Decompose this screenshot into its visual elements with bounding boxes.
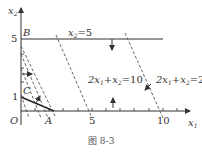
figure-caption: 图 8-3 <box>88 136 115 146</box>
point-C-label: C <box>23 85 31 96</box>
dashed-line-eq10 <box>56 35 92 118</box>
x-axis-label: x1 <box>188 117 197 129</box>
y-tick-1: 1 <box>12 91 18 102</box>
x-tick-10: 10 <box>157 115 170 126</box>
lp-diagram: x2 x1 O 5 1 5 10 B C A x2=5 2x1+x2=10 2x… <box>0 0 202 152</box>
point-B-label: B <box>22 27 30 38</box>
line-CA <box>21 97 54 111</box>
label-eq20: 2x1+x2=20 <box>155 74 202 86</box>
origin-label: O <box>10 115 18 126</box>
label-x2-eq-5: x2=5 <box>68 27 92 39</box>
y-axis-label: x2 <box>8 5 18 17</box>
dashed-line-4 <box>21 46 56 118</box>
label-eq10: 2x1+x2=10 <box>87 74 143 86</box>
x-tick-5: 5 <box>89 115 95 126</box>
y-tick-5: 5 <box>11 33 17 44</box>
point-A-label: A <box>44 115 52 126</box>
y-axis <box>21 8 24 125</box>
